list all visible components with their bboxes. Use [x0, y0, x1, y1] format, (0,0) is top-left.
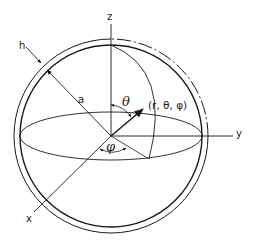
spherical-coordinates-diagram: z y x h a θ φ (r, θ, φ) [0, 0, 253, 244]
x-axis [34, 136, 111, 212]
point-label: (r, θ, φ) [148, 100, 187, 111]
z-axis-label: z [107, 12, 112, 22]
projection-line [111, 136, 149, 159]
phi-label: φ [106, 140, 115, 153]
thickness-label: h [19, 41, 25, 51]
radius-label: a [78, 95, 84, 105]
theta-label: θ [122, 95, 130, 108]
y-axis-label: y [236, 129, 242, 139]
x-axis-label: x [26, 214, 32, 224]
position-vector [111, 109, 143, 136]
sphere-figure [0, 0, 253, 244]
thickness-h-arrow [26, 47, 41, 63]
